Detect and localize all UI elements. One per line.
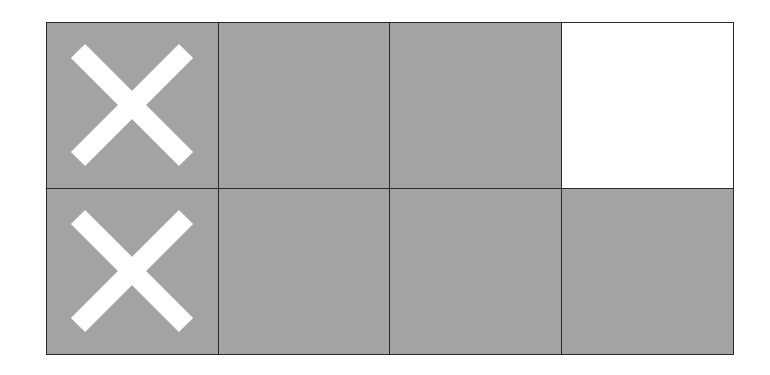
shaded-cell [219, 189, 391, 355]
shaded-cell [390, 189, 562, 355]
shaded-cell [562, 189, 734, 355]
cross-mark-icon [70, 43, 194, 167]
shaded-cell [390, 23, 562, 189]
shaded-cell [47, 189, 219, 355]
shaded-cell [47, 23, 219, 189]
unshaded-cell [562, 23, 734, 189]
cross-mark-icon [70, 209, 194, 333]
fraction-grid [46, 22, 734, 355]
shaded-cell [219, 23, 391, 189]
